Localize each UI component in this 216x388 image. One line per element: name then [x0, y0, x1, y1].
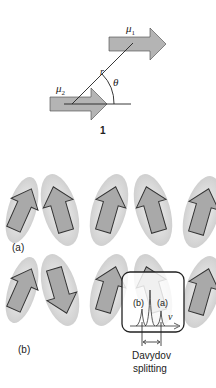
- dipole-mu1-arrow: [109, 28, 166, 60]
- mu1-label: μ1: [126, 23, 135, 37]
- row-a-molecules: [0, 170, 216, 253]
- peak-a-label: (a): [157, 299, 168, 308]
- peak-b-label: (b): [133, 299, 144, 308]
- diagram-canvas: [0, 0, 216, 388]
- panel-b-label: (b): [18, 345, 30, 355]
- davydov-caption-line1: Davydov: [132, 351, 171, 361]
- mu2-label: μ2: [56, 83, 65, 97]
- frequency-axis-label: ν: [168, 312, 172, 322]
- spectrum-inset: [122, 272, 184, 346]
- r-label: r: [100, 67, 104, 77]
- panel-a-label: (a): [12, 243, 24, 253]
- theta-label: θ: [113, 77, 118, 88]
- structure-number: 1: [100, 126, 106, 136]
- dipole-geometry: [50, 28, 166, 120]
- davydov-caption-line2: splitting: [133, 364, 167, 374]
